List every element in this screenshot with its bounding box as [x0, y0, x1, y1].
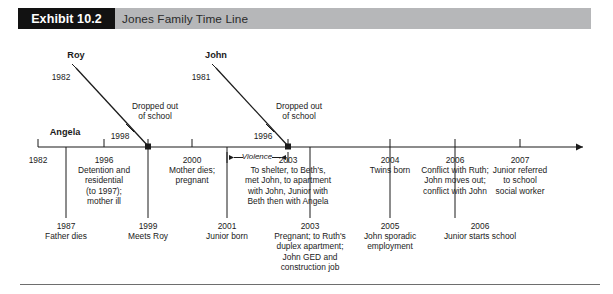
event-text-line: John GED and	[259, 252, 361, 262]
john-birth-year: 1981	[192, 72, 211, 82]
event-text-line: employment	[351, 241, 429, 251]
event-text-line: Junior born	[189, 231, 265, 241]
roy-birth-tick	[72, 64, 80, 72]
person-label-roy: Roy	[67, 50, 84, 60]
event-text-line: Detention and	[58, 165, 150, 175]
event-text-line: construction job	[259, 262, 361, 272]
event-below-1987: 1987 Father dies	[28, 221, 104, 241]
roy-event-line1: Dropped out	[132, 101, 178, 111]
event-above-2003: 2003 To shelter, to Beth's, met John, to…	[236, 155, 340, 206]
event-year: 1987	[28, 221, 104, 231]
event-text-line: social worker	[475, 186, 565, 196]
event-below-2006: 2006 Junior starts school	[425, 221, 535, 241]
event-text-line: (to 1997);	[58, 186, 150, 196]
event-year: 2000	[153, 155, 231, 165]
event-text-line: duplex apartment;	[259, 241, 361, 251]
event-text-line: Mother dies;	[153, 165, 231, 175]
event-text-line: Father dies	[28, 231, 104, 241]
john-end-marker	[285, 144, 291, 150]
event-year: 1999	[110, 221, 186, 231]
event-below-2003: 2003 Pregnant; to Ruth's duplex apartmen…	[259, 221, 361, 272]
roy-end-marker	[145, 144, 151, 150]
event-above-2000: 2000 Mother dies; pregnant	[153, 155, 231, 186]
john-event-year: 1996	[254, 131, 273, 141]
event-below-1999: 1999 Meets Roy	[110, 221, 186, 241]
john-birth-tick	[212, 64, 220, 72]
john-event-line1: Dropped out	[276, 101, 322, 111]
event-text-line: John sporadic	[351, 231, 429, 241]
event-text-line: To shelter, to Beth's,	[236, 165, 340, 175]
event-text-line: Junior referred	[475, 165, 565, 175]
event-text-line: met John, to apartment	[236, 175, 340, 185]
event-text-line: Beth then with Angela	[236, 196, 340, 206]
person-label-angela: Angela	[50, 127, 81, 137]
event-text-line: residential	[58, 175, 150, 185]
axis-start-year: 1982	[29, 155, 48, 165]
event-below-2005: 2005 John sporadic employment	[351, 221, 429, 252]
event-text-line: with John, Junior with	[236, 186, 340, 196]
person-label-john: John	[205, 50, 227, 60]
roy-event-year: 1998	[111, 131, 130, 141]
event-text-line: Pregnant; to Ruth's	[259, 231, 361, 241]
event-year: 1996	[58, 155, 150, 165]
event-below-2001: 2001 Junior born	[189, 221, 265, 241]
event-text-line: Meets Roy	[110, 231, 186, 241]
event-text-line: Junior starts school	[425, 231, 535, 241]
event-year: 2003	[236, 155, 340, 165]
event-text-line: to school	[475, 175, 565, 185]
roy-event-line2: of school	[138, 111, 172, 121]
roy-birth-year: 1982	[52, 72, 71, 82]
exhibit-figure: Exhibit 10.2 Jones Family Time Line	[0, 0, 613, 294]
event-above-1996: 1996 Detention and residential (to 1997)…	[58, 155, 150, 206]
event-text-line: mother ill	[58, 196, 150, 206]
john-event-line2: of school	[282, 111, 316, 121]
event-above-2007: 2007 Junior referred to school social wo…	[475, 155, 565, 196]
event-year: 2003	[259, 221, 361, 231]
footer-rule	[20, 284, 600, 285]
event-year: 2005	[351, 221, 429, 231]
event-year: 2006	[425, 221, 535, 231]
event-year: 2001	[189, 221, 265, 231]
event-year: 2007	[475, 155, 565, 165]
event-text-line: pregnant	[153, 175, 231, 185]
